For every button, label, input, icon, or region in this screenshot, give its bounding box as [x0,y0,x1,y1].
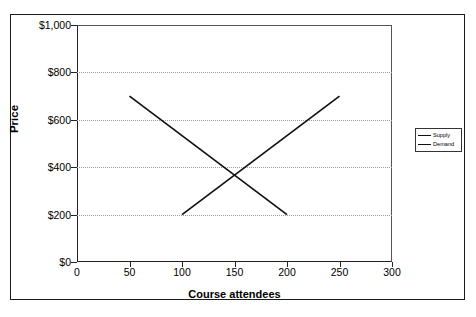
y-axis-tick-label: $600 [48,114,71,126]
legend-line-swatch [418,144,431,145]
x-axis-tick [182,262,183,267]
chart-legend: SupplyDemand [415,128,462,152]
y-axis-tick-label: $400 [48,161,71,173]
series-lines [77,25,392,262]
y-axis-tick-label: $0 [59,256,71,268]
legend-item: Supply [418,131,459,140]
legend-item: Demand [418,140,459,149]
x-axis-tick-label: 50 [124,266,136,278]
legend-line-swatch [418,135,431,136]
x-axis-tick [235,262,236,267]
y-axis-tick-label: $800 [48,66,71,78]
y-axis-tick-label: $1,000 [39,19,71,31]
x-axis-tick-label: 300 [383,266,401,278]
y-axis-title: Price [8,105,20,133]
y-axis-tick-label: $200 [48,209,71,221]
y-axis-tick [71,262,77,263]
x-axis-tick-label: 200 [278,266,296,278]
y-axis-tick-labels: $0$200$400$600$800$1,000 [26,25,71,262]
series-line-demand [130,96,288,215]
legend-item-label: Supply [433,131,450,140]
x-axis-tick-label: 100 [173,266,191,278]
x-axis-tick [340,262,341,267]
x-axis-tick [392,262,393,267]
chart-screenshot: Price Course attendees $0$200$400$600$80… [0,0,476,317]
x-axis-tick [130,262,131,267]
plot-area [77,25,392,262]
x-axis-title: Course attendees [77,288,392,300]
x-axis-tick-label: 250 [331,266,349,278]
x-axis-tick-label: 0 [74,266,80,278]
legend-item-label: Demand [433,140,454,149]
x-axis-tick [287,262,288,267]
x-axis-tick-label: 150 [226,266,244,278]
series-line-supply [182,96,340,215]
